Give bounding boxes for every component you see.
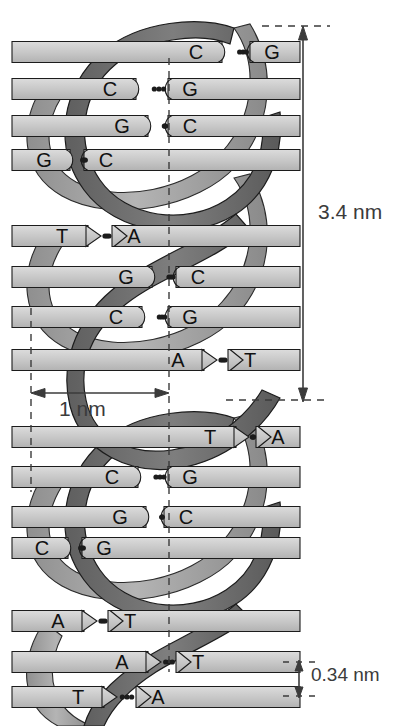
hydrogen-bond-dot [244, 49, 249, 54]
base-letter-left: G [36, 149, 52, 171]
rung-left-bar [12, 427, 236, 448]
base-pair-rung: TA [12, 426, 300, 448]
hydrogen-bond-dot [156, 86, 161, 91]
hydrogen-bond-dot [222, 357, 227, 362]
rung-right-bar [228, 350, 300, 371]
hydrogen-bond-dot [170, 659, 175, 664]
base-pair-rung: CG [12, 41, 300, 63]
base-letter-left: G [112, 506, 128, 528]
hydrogen-bond-dot [163, 123, 168, 128]
hydrogen-bond-dot [102, 618, 107, 623]
rung-head-arrow-left [82, 611, 97, 632]
base-letter-right: G [96, 537, 112, 559]
base-letter-right: T [124, 610, 136, 632]
base-pair-rung: TA [12, 225, 300, 247]
hydrogen-bond-dot [124, 694, 129, 699]
base-pair-rung: CG [12, 537, 300, 559]
base-letter-right: T [192, 651, 204, 673]
hydrogen-bond-dot [80, 157, 85, 162]
base-letter-right: C [191, 266, 205, 288]
hydrogen-bond-dot [162, 314, 167, 319]
base-pair-rung: CG [12, 78, 300, 100]
rung-left-bar [12, 226, 88, 247]
base-letter-left: C [189, 41, 203, 63]
base-letter-left: C [35, 537, 49, 559]
base-pair-rung: AT [12, 610, 300, 632]
hydrogen-bond-dot [159, 514, 164, 519]
rung-head-arrow-left [202, 350, 217, 371]
rung-head-lobe-left [134, 467, 141, 488]
rung-right-bar [82, 538, 300, 559]
dimension-label-major-turn: 3.4 nm [318, 200, 382, 224]
base-letter-left: A [115, 651, 129, 673]
dimension-label-diameter: 1 nm [59, 397, 106, 421]
base-letter-right: C [183, 115, 197, 137]
rung-head-lobe-left [142, 507, 149, 528]
hydrogen-bond-dot [161, 86, 166, 91]
base-letter-right: G [264, 41, 280, 63]
base-letter-left: T [72, 686, 84, 708]
base-pair-rung: AT [12, 349, 300, 371]
rung-left-bar [12, 611, 84, 632]
base-letter-left: A [51, 610, 65, 632]
base-letter-right: A [127, 225, 141, 247]
base-letter-right: T [244, 349, 256, 371]
hydrogen-bond-dot [78, 545, 83, 550]
rung-left-bar [12, 687, 104, 708]
rung-right-bar [108, 611, 300, 632]
base-pair-rung: GC [12, 115, 300, 137]
base-pair-rung: GC [12, 149, 300, 171]
base-letter-left: C [103, 78, 117, 100]
base-letter-left: G [118, 266, 134, 288]
hydrogen-bond-dot [152, 86, 157, 91]
rung-head-lobe-left [132, 79, 139, 100]
base-letter-left: C [109, 306, 123, 328]
base-letter-right: C [99, 149, 113, 171]
rung-head-lobe-left [144, 116, 151, 137]
hydrogen-bond-dot [161, 474, 166, 479]
base-letter-right: A [271, 426, 285, 448]
rung-head-lobe-left [218, 42, 225, 63]
hydrogen-bond-dot [106, 233, 111, 238]
dimension-label-base-rise: 0.34 nm [311, 664, 380, 686]
rung-head-lobe-left [138, 307, 145, 328]
dna-diagram-svg: CGCGGCGCTAGCCGATTACGGCCGATATTA [0, 0, 407, 726]
hydrogen-bond-dot [129, 694, 134, 699]
base-letter-left: A [171, 349, 185, 371]
base-letter-right: G [182, 466, 198, 488]
base-pair-rung: TA [12, 686, 300, 708]
base-letter-right: G [182, 78, 198, 100]
rung-left-bar [12, 79, 136, 100]
base-letter-left: T [204, 426, 216, 448]
base-letter-left: T [56, 225, 68, 247]
base-pair-rung: CG [12, 306, 300, 328]
dna-helix-figure: CGCGGCGCTAGCCGATTACGGCCGATATTA [0, 0, 407, 726]
base-letter-right: G [182, 306, 198, 328]
base-pair-rung: GC [12, 506, 300, 528]
hydrogen-bond-dot [251, 434, 256, 439]
base-letter-right: A [151, 686, 165, 708]
base-letter-left: G [114, 115, 130, 137]
base-letter-left: C [105, 466, 119, 488]
hydrogen-bond-dot [170, 274, 175, 279]
hydrogen-bond-dot [120, 694, 125, 699]
rung-right-bar [84, 150, 300, 171]
base-letter-right: C [179, 506, 193, 528]
